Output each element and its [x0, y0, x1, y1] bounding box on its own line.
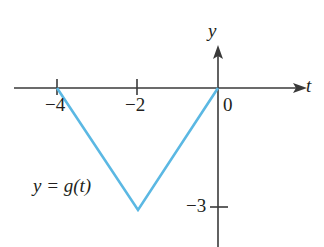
function-annotation-label: y = g(t) — [33, 176, 91, 195]
y-axis-label: y — [208, 21, 216, 40]
tick-label-neg4: −4 — [45, 95, 65, 114]
tick-label-neg3: −3 — [186, 196, 206, 215]
graph-figure: y t −4 −2 0 −3 y = g(t) — [0, 0, 324, 247]
origin-label: 0 — [223, 95, 233, 114]
tick-label-neg2: −2 — [125, 95, 145, 114]
t-axis-label: t — [306, 76, 311, 95]
graph-canvas — [0, 0, 324, 247]
